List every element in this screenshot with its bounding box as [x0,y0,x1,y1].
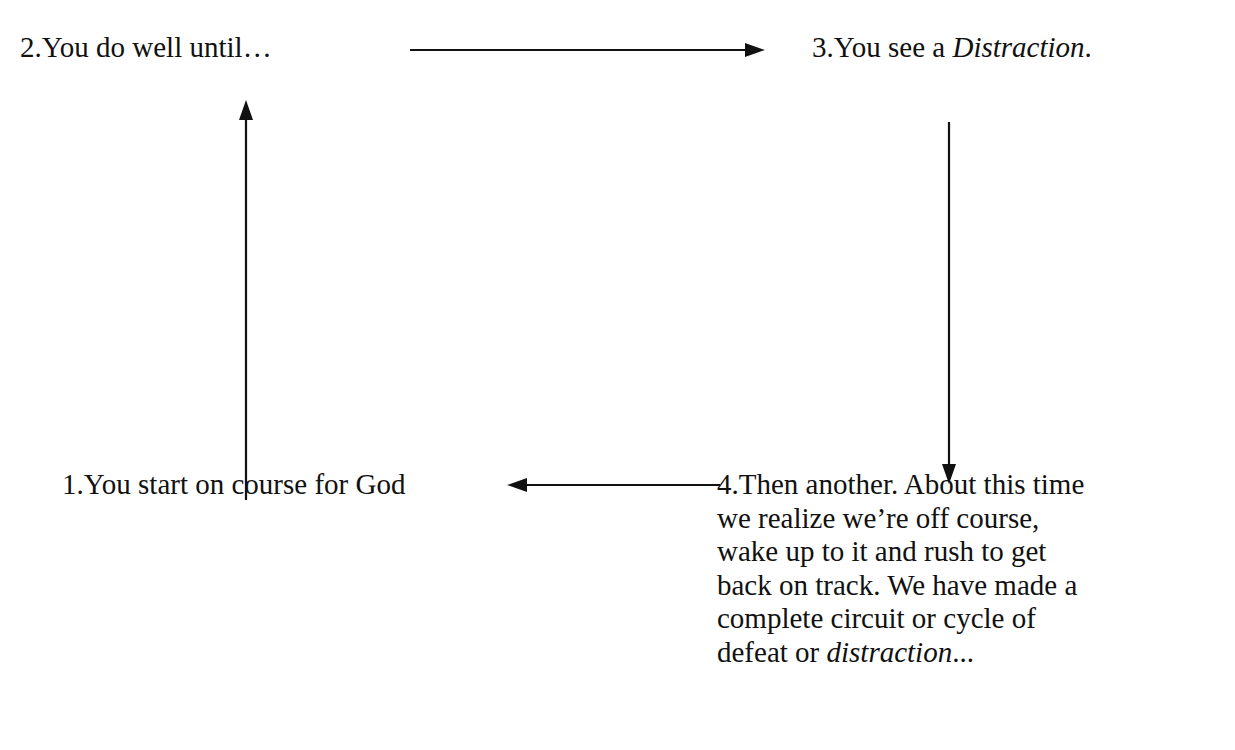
arrow-right-icon [410,43,765,57]
node-4-line-6: defeat or distraction... [717,636,1084,670]
node-2-do-well: 2.You do well until… [20,31,272,65]
node-3-italic-text: Distraction [952,31,1084,63]
node-4-line-2: we realize we’re off course, [717,502,1084,536]
node-4-line-4: back on track. We have made a [717,569,1084,603]
arrow-up-icon [239,100,253,500]
arrow-left-icon [507,478,720,492]
node-1-number: 1. [62,468,84,500]
arrow-down-icon [942,122,956,484]
node-1-start-course: 1.You start on course for God [62,468,405,502]
node-4-last-prefix: defeat or [717,636,827,668]
node-4-number: 4. [717,468,739,500]
node-3-number: 3. [812,31,834,63]
node-3-text: You see a [834,31,953,63]
node-4-cycle-complete: 4.Then another. About this time we reali… [717,468,1084,669]
node-2-text: You do well until… [42,31,272,63]
node-4-line-3: wake up to it and rush to get [717,535,1084,569]
node-1-text: You start on course for God [84,468,406,500]
node-4-line-1: 4.Then another. About this time [717,468,1084,502]
node-4-last-italic: distraction [827,636,953,668]
node-2-number: 2. [20,31,42,63]
node-4-last-suffix: ... [952,636,974,668]
node-4-line-5: complete circuit or cycle of [717,602,1084,636]
node-4-text-line-1: Then another. About this time [739,468,1085,500]
node-3-suffix: . [1085,31,1092,63]
node-3-distraction: 3.You see a Distraction. [812,31,1092,65]
